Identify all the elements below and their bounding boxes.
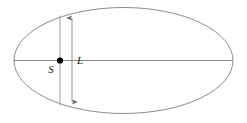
point-S-marker — [57, 57, 63, 63]
label-S: S — [48, 63, 54, 75]
label-L: L — [76, 54, 83, 66]
ellipse-figure: S L — [0, 0, 247, 123]
figure-svg: S L — [0, 0, 247, 123]
